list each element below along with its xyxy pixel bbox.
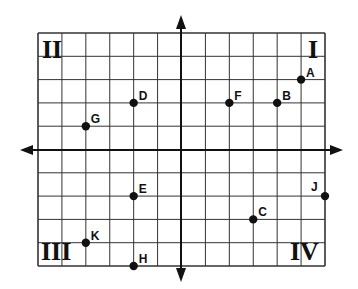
quadrant-label-iii: III: [41, 237, 71, 266]
point-label: E: [139, 182, 147, 196]
point-label: C: [258, 205, 267, 219]
quadrant-label-i: I: [308, 35, 318, 64]
point-c: C: [249, 205, 267, 223]
x-axis-right-arrow-icon: [330, 145, 343, 155]
point-label: F: [234, 89, 241, 103]
point-j: J: [311, 180, 329, 200]
point-label: H: [139, 252, 148, 266]
point-e: E: [129, 182, 146, 200]
point-label: B: [282, 89, 291, 103]
point-f: F: [225, 89, 242, 107]
point-label: J: [311, 180, 318, 194]
y-axis-up-arrow-icon: [176, 15, 186, 29]
point-marker: [129, 99, 137, 107]
x-axis-left-arrow-icon: [20, 145, 33, 155]
quadrant-label-iv: IV: [290, 237, 319, 266]
point-marker: [129, 192, 137, 200]
point-marker: [129, 262, 137, 270]
coordinate-plane: II I III IV ABCDEFGHJK: [0, 0, 358, 289]
point-h: H: [129, 252, 147, 270]
point-label: G: [91, 112, 100, 126]
point-a: A: [297, 66, 315, 84]
point-marker: [297, 75, 305, 83]
point-marker: [82, 122, 90, 130]
point-marker: [273, 99, 281, 107]
point-label: K: [91, 229, 100, 243]
point-marker: [82, 239, 90, 247]
point-label: D: [139, 89, 148, 103]
point-g: G: [82, 112, 101, 130]
point-b: B: [273, 89, 291, 107]
point-marker: [321, 192, 329, 200]
point-marker: [225, 99, 233, 107]
point-marker: [249, 215, 257, 223]
quadrant-label-ii: II: [42, 35, 62, 64]
point-d: D: [129, 89, 147, 107]
y-axis-down-arrow-icon: [176, 268, 186, 282]
point-label: A: [306, 66, 315, 80]
point-k: K: [82, 229, 100, 247]
